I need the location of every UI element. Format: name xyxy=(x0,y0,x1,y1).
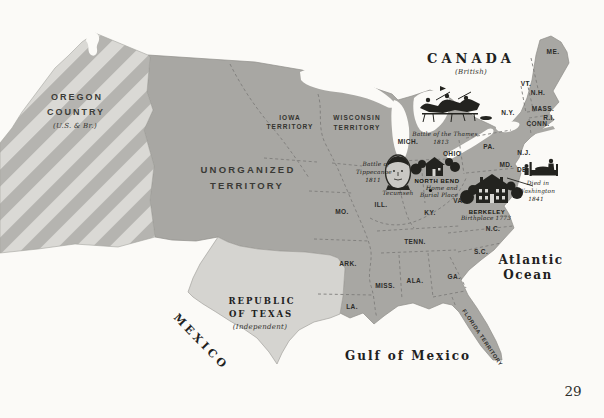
berkeley-sub: Birthplace 1773 xyxy=(461,216,511,222)
state-label-ill: ILL. xyxy=(374,202,387,209)
state-label-ny: N.Y. xyxy=(501,110,515,117)
canada-note: (British) xyxy=(455,69,487,76)
state-label-me: ME. xyxy=(547,49,560,56)
deathbed-illustration xyxy=(525,159,559,176)
oregon-country-shape xyxy=(0,33,155,253)
thames-label-line2: 1813 xyxy=(433,140,449,146)
oregon-country-label-line1: OREGON xyxy=(51,93,103,102)
state-label-vt: VT. xyxy=(521,81,532,88)
tecumseh-label: Tecumseh xyxy=(382,191,413,197)
state-label-ky: KY. xyxy=(424,210,435,217)
thames-label-line1: Battle of the Thames xyxy=(412,132,477,138)
state-label-nh: N.H. xyxy=(531,90,546,97)
unorganized-territory-label-line1: UNORGANIZED xyxy=(201,165,296,175)
north-bend-line3: Burial Place xyxy=(420,193,458,199)
state-label-sc: S.C. xyxy=(474,249,488,256)
state-label-nc: N.C. xyxy=(486,226,501,233)
state-label-mo: MO. xyxy=(335,209,348,216)
iowa-territory-label-line1: IOWA xyxy=(279,115,301,122)
died-label-line2: Washington xyxy=(519,189,555,195)
oregon-country-note: (U.S. & Br.) xyxy=(53,123,97,130)
atlantic-ocean-label-line2: Ocean xyxy=(503,269,552,281)
texas-label-line1: REPUBLIC xyxy=(228,297,295,306)
page-number: 29 xyxy=(564,385,581,399)
north-bend-label: NORTH BEND xyxy=(415,178,460,184)
wisconsin-territory-label-line2: TERRITORY xyxy=(333,125,380,132)
state-label-conn: CONN. xyxy=(527,121,550,128)
oregon-country-label-line2: COUNTRY xyxy=(47,108,105,117)
state-label-ga: GA. xyxy=(448,274,461,281)
texas-label-line2: OF TEXAS xyxy=(229,310,293,319)
tippecanoe-label-line1: Battle of xyxy=(363,162,390,168)
north-bend-line2: Home and xyxy=(426,186,458,192)
state-label-mich: MICH. xyxy=(398,139,418,146)
book-page: CANADA (British) OREGON COUNTRY (U.S. & … xyxy=(0,0,604,418)
gulf-of-mexico-label: Gulf of Mexico xyxy=(345,350,471,362)
died-label-line3: 1841 xyxy=(528,197,544,203)
unorganized-territory-label-line2: TERRITORY xyxy=(210,181,284,191)
state-label-de: DE. xyxy=(517,167,529,174)
state-label-pa: PA. xyxy=(483,144,495,151)
iowa-territory-label-line2: TERRITORY xyxy=(266,124,313,131)
tippecanoe-label-line2: Tippecanoe xyxy=(356,170,392,176)
state-label-ark: ARK. xyxy=(339,261,357,268)
texas-note: (Independent) xyxy=(233,324,287,331)
state-label-nj: N.J. xyxy=(517,150,531,157)
state-label-ohio: OHIO xyxy=(443,151,461,158)
wisconsin-territory-label-line1: WISCONSIN xyxy=(333,115,380,122)
state-label-tenn: TENN. xyxy=(404,239,426,246)
state-label-mass: MASS. xyxy=(532,106,555,113)
tippecanoe-label-line3: 1811 xyxy=(365,178,381,184)
canada-label: CANADA xyxy=(427,52,515,65)
state-label-ala: ALA. xyxy=(407,278,424,285)
state-label-md: MD. xyxy=(499,162,512,169)
died-label-line1: Died in xyxy=(527,181,549,187)
berkeley-label: BERKELEY xyxy=(469,209,506,215)
atlantic-ocean-label-line1: Atlantic xyxy=(498,254,563,266)
state-label-la: LA. xyxy=(346,304,358,311)
state-label-miss: MISS. xyxy=(375,283,395,290)
